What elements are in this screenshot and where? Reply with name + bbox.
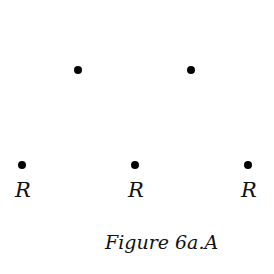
bottom-right-dot [244, 161, 252, 169]
bottom-left-dot [18, 161, 26, 169]
figure-caption: Figure 6a.A [105, 233, 218, 252]
label-bottom-left: R [15, 180, 31, 201]
top-right-dot [187, 66, 195, 74]
label-bottom-right: R [241, 180, 257, 201]
top-left-dot [74, 66, 82, 74]
label-bottom-middle: R [128, 180, 144, 201]
bottom-middle-dot [131, 161, 139, 169]
